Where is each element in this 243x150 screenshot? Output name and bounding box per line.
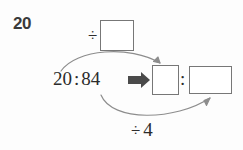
top-divisor-answer-box[interactable]	[100, 20, 134, 51]
original-ratio-second-term: 84	[81, 68, 100, 89]
worksheet-exercise: 20 ÷ 20:84 : ÷ 4	[0, 0, 243, 150]
result-ratio-colon: :	[180, 68, 185, 90]
bottom-divisor-value: 4	[143, 119, 153, 141]
original-ratio-colon: :	[72, 68, 81, 89]
block-right-arrow-icon	[128, 72, 150, 88]
result-first-term-answer-box[interactable]	[152, 65, 179, 95]
original-ratio-first-term: 20	[53, 68, 72, 89]
original-ratio: 20:84	[53, 68, 100, 90]
result-second-term-answer-box[interactable]	[189, 66, 232, 94]
bottom-operation-label: ÷ 4	[131, 119, 153, 141]
lower-curved-arrow	[101, 95, 210, 115]
top-operation-label: ÷	[88, 20, 134, 51]
exercise-number: 20	[13, 15, 31, 32]
divide-symbol-top: ÷	[88, 27, 97, 44]
divide-symbol-bottom: ÷	[131, 122, 140, 139]
